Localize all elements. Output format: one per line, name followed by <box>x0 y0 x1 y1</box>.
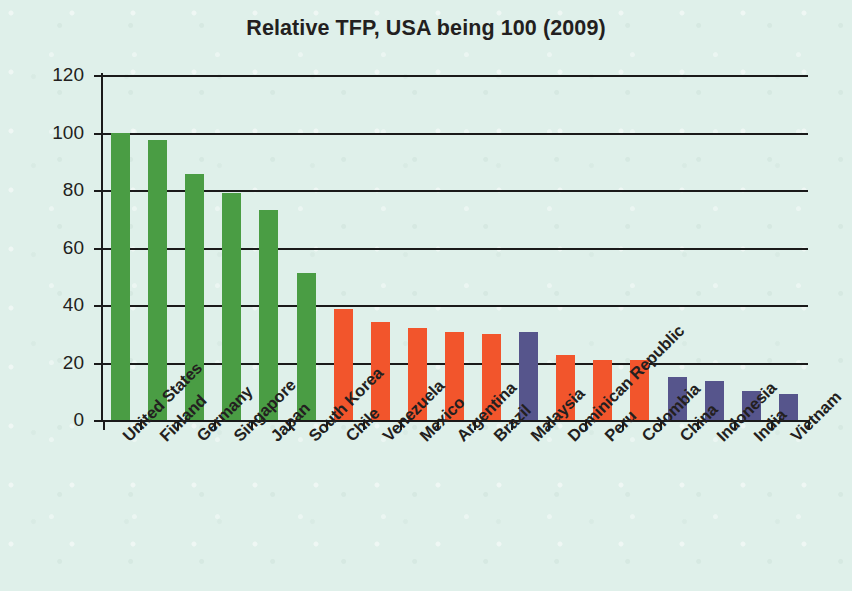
x-axis-tick <box>734 420 736 430</box>
y-axis-tick <box>94 363 103 365</box>
y-axis-tick <box>94 248 103 250</box>
y-axis-tick <box>94 190 103 192</box>
x-axis-tick <box>585 420 587 430</box>
x-axis-tick <box>400 420 402 430</box>
y-axis-tick <box>94 75 103 77</box>
x-axis-tick-label: Vietnam <box>787 387 845 445</box>
x-axis-tick-labels: United StatesFinlandGermanySingaporeJapa… <box>0 0 852 591</box>
x-axis-tick <box>140 420 142 430</box>
x-axis-tick <box>474 420 476 430</box>
x-axis-tick <box>177 420 179 430</box>
x-axis-tick <box>511 420 513 430</box>
x-axis-tick <box>326 420 328 430</box>
bar-chart-figure: Relative TFP, USA being 100 (2009) 02040… <box>0 0 852 591</box>
y-axis-tick <box>94 305 103 307</box>
x-axis-tick <box>103 420 105 430</box>
x-axis-tick <box>289 420 291 430</box>
x-axis-tick <box>214 420 216 430</box>
x-axis-tick <box>251 420 253 430</box>
x-axis-tick <box>660 420 662 430</box>
x-axis-tick <box>622 420 624 430</box>
x-axis-tick <box>363 420 365 430</box>
x-axis-tick <box>548 420 550 430</box>
x-axis-tick <box>437 420 439 430</box>
y-axis-tick <box>94 420 103 422</box>
x-axis-tick <box>808 420 810 430</box>
y-axis-tick <box>94 133 103 135</box>
x-axis-tick <box>697 420 699 430</box>
x-axis-tick <box>771 420 773 430</box>
